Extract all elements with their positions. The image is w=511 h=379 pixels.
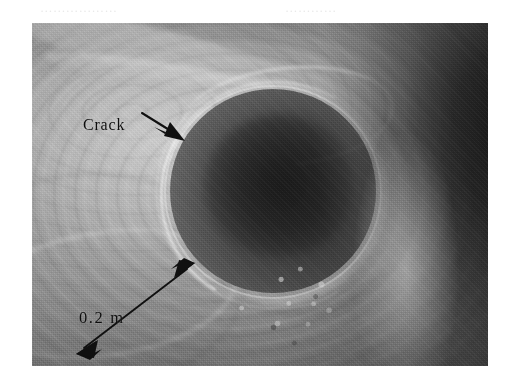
ghost-text-left: ……………… (40, 1, 117, 16)
crack-annotation-label: Crack (83, 116, 125, 134)
crack-leader-arrow (142, 113, 185, 141)
scale-annotation-label: 0.2 m (79, 308, 125, 328)
scan-bleed-through-band: ……………… ………… (0, 0, 511, 20)
ghost-text-right: ………… (285, 1, 337, 16)
borehole-photograph: Crack 0.2 m (32, 23, 488, 366)
figure-page: ……………… ………… (0, 0, 511, 379)
